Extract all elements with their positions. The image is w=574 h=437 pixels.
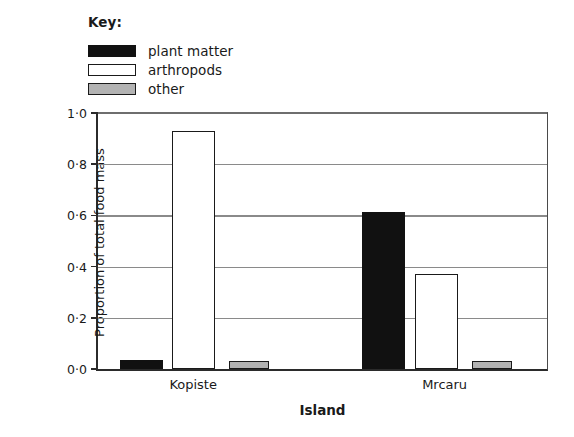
legend-item-arthropods: arthropods [88,61,308,78]
y-tick-label-0·8: 0·8 [67,157,87,172]
y-tick-label-0·6: 0·6 [67,208,87,223]
category-label-kopiste: Kopiste [169,377,217,392]
legend-item-plant-matter: plant matter [88,42,308,59]
y-axis-title: Proportion of total food mass [92,113,108,372]
y-tick-0·4 [91,266,98,268]
legend-label-plant-matter: plant matter [148,43,233,59]
legend-item-other: other [88,80,308,97]
chart-plot-area: Proportion of total food mass 0·00·20·40… [96,112,548,371]
bar-kopiste-other [229,361,269,369]
gridline-0·2 [98,318,547,319]
bar-kopiste-plant-matter [120,360,163,369]
y-tick-0·0 [91,368,98,370]
legend-title: Key: [88,14,308,30]
legend-label-other: other [148,81,184,97]
gridline-0·6 [98,215,547,216]
bar-mrcaru-plant-matter [362,212,405,369]
legend-label-arthropods: arthropods [148,62,222,78]
y-tick-label-0·4: 0·4 [67,259,87,274]
y-tick-0·2 [91,317,98,319]
category-label-mrcaru: Mrcaru [422,377,467,392]
bar-kopiste-arthropods [172,131,216,369]
gridline-1·0 [98,113,547,114]
y-tick-label-0·2: 0·2 [67,310,87,325]
y-tick-0·8 [91,163,98,165]
gridline-0·4 [98,267,547,268]
bar-mrcaru-arthropods [415,274,458,369]
y-tick-label-1·0: 1·0 [67,106,87,121]
chart-legend: Key: plant matter arthropods other [88,14,308,99]
legend-swatch-other [88,83,136,95]
legend-swatch-arthropods [88,64,136,76]
bar-mrcaru-other [472,361,513,369]
x-axis-title: Island [98,402,547,418]
y-tick-1·0 [91,112,98,114]
y-tick-0·6 [91,215,98,217]
legend-swatch-plant-matter [88,45,136,57]
y-tick-label-0·0: 0·0 [67,362,87,377]
gridline-0·8 [98,164,547,165]
